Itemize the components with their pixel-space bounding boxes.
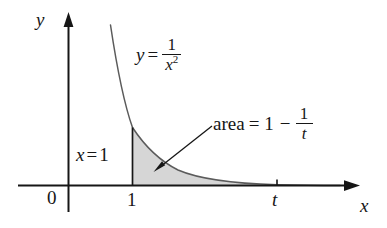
figure-root: y x 0 1 t x=1 y= 1 x2 area=1− 1 t: [0, 0, 387, 228]
curve-equation-lhs: y: [136, 45, 144, 64]
tick-label-t: t: [272, 190, 277, 209]
vertical-line-label-value: 1: [99, 144, 109, 165]
origin-label-zero: 0: [47, 188, 57, 207]
curve-equation-denominator-base: x: [165, 55, 173, 74]
curve-equation-denominator: x2: [162, 55, 181, 73]
curve-equation-fraction: 1 x2: [162, 36, 181, 73]
vertical-line-label: x=1: [76, 145, 109, 164]
area-annotation-minus: −: [280, 114, 291, 133]
curve-equation-label: y= 1 x2: [136, 36, 181, 73]
axis-label-y: y: [36, 10, 44, 29]
area-annotation-fraction: 1 t: [296, 105, 313, 142]
area-annotation-label: area=1− 1 t: [213, 105, 313, 142]
tick-label-one: 1: [127, 190, 137, 209]
x-axis-arrowhead: [344, 180, 360, 191]
area-annotation-fraction-numerator: 1: [297, 105, 312, 123]
y-axis-arrowhead: [64, 12, 74, 27]
area-annotation-fraction-denominator: t: [299, 124, 310, 142]
graph-canvas: [0, 0, 387, 228]
curve-equation-equals: =: [147, 45, 158, 64]
curve-equation-denominator-exponent: 2: [173, 54, 179, 66]
area-annotation-word: area: [213, 114, 245, 133]
area-annotation-value: 1: [264, 114, 274, 133]
vertical-line-label-var: x: [76, 144, 84, 165]
axis-label-x: x: [360, 196, 368, 215]
area-annotation-equals: =: [249, 114, 260, 133]
area-leader-line: [160, 126, 212, 167]
curve-equation-numerator: 1: [164, 36, 179, 54]
vertical-line-label-equals: =: [86, 144, 97, 165]
